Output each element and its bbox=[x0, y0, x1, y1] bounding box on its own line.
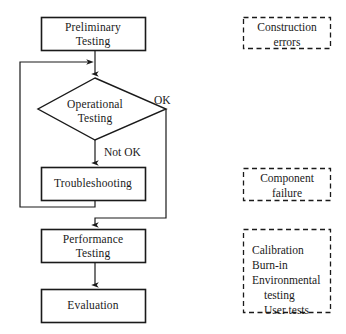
flowchart-canvas: Preliminary Testing Operational Testing … bbox=[0, 0, 346, 334]
node-box-performance-testing bbox=[42, 230, 146, 263]
edge-label-ok: OK bbox=[154, 94, 171, 107]
node-diamond-operational-testing bbox=[38, 78, 166, 140]
note-text-test-types-line3: Environmental bbox=[252, 273, 330, 288]
edge-label-not-ok: Not OK bbox=[104, 146, 141, 159]
note-text-test-types-line1: Calibration bbox=[252, 243, 330, 258]
note-text-construction-errors-line1: Construction bbox=[243, 20, 331, 35]
note-text-test-types: Calibration Burn-in Environmental testin… bbox=[252, 243, 330, 318]
node-box-preliminary-testing bbox=[42, 18, 146, 51]
note-text-test-types-line2: Burn-in bbox=[252, 258, 330, 273]
note-text-construction-errors: Construction errors bbox=[243, 20, 331, 50]
node-box-troubleshooting bbox=[42, 168, 146, 201]
note-text-component-failure-line1: Component bbox=[243, 171, 331, 186]
note-text-test-types-line4: testing bbox=[252, 288, 330, 303]
note-text-component-failure: Component failure bbox=[243, 171, 331, 201]
note-text-test-types-line5: User tests bbox=[252, 303, 330, 318]
note-text-construction-errors-line2: errors bbox=[243, 35, 331, 50]
node-box-evaluation bbox=[42, 290, 146, 323]
note-text-component-failure-line2: failure bbox=[243, 186, 331, 201]
